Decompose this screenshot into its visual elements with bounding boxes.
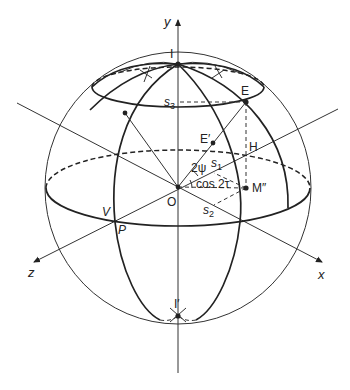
E-label: E	[241, 84, 249, 98]
point-O-dot	[176, 185, 181, 190]
bottom-pole-dash-right	[178, 316, 196, 321]
z-axis-label: z	[27, 265, 35, 280]
bottom-pole-dash-left	[160, 316, 178, 321]
x-axis	[17, 103, 322, 262]
P-label: P	[118, 223, 126, 237]
origin-label: O	[167, 195, 176, 209]
point-I-dot	[175, 61, 180, 66]
angle-tau-label: cos 2τ	[196, 177, 230, 191]
V-label: V	[102, 205, 111, 219]
s3-label: s3	[164, 95, 175, 111]
point-I-prime-dot	[175, 313, 180, 318]
left-point-dot	[123, 111, 128, 116]
point-M-dot	[243, 185, 248, 190]
pole-bottom-label: I′	[174, 297, 180, 311]
pole-top-label: I	[170, 47, 173, 61]
radius-to-left-point	[125, 113, 178, 187]
angle-arc-tau	[190, 180, 192, 188]
point-E-prime-dot	[211, 141, 216, 146]
z-axis	[34, 109, 338, 262]
M-label: M″	[252, 181, 267, 195]
s1-label: s1	[211, 156, 222, 172]
point-E-dot	[243, 99, 248, 104]
H-label: H	[249, 140, 258, 154]
meridian-far-right	[178, 64, 288, 208]
angle-psi-label: 2ψ	[191, 161, 206, 175]
E-prime-label: E′	[200, 132, 211, 146]
poincare-sphere-diagram: y x z I I′ O E E′ H M″ V P s3 s1 s2 2ψ c…	[0, 0, 350, 390]
x-axis-label: x	[317, 267, 325, 282]
y-axis-label: y	[163, 14, 172, 29]
